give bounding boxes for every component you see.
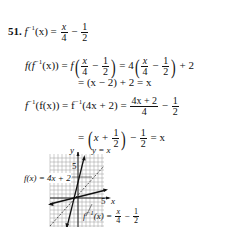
problem-number: 51. [8, 25, 22, 37]
composition-f-of-finv-result: = (x − 2) + 2 = x [78, 77, 151, 88]
identity-label: y = x [92, 145, 111, 155]
x-tick-5: 5 [101, 196, 106, 206]
f-label: f(x) = 4x + 2 [24, 173, 71, 183]
fraction: 12 [81, 22, 88, 43]
finv-label: f−1(x) = x4 − 12 [83, 208, 140, 225]
y-tick-5: 5 [72, 161, 77, 171]
composition-f-of-finv: f(f−1(x)) = f(x4 − 12) = 4(x4 − 12) + 2 [25, 56, 194, 77]
inverse-definition: 51. f−1(x) = x4 − 12 [8, 22, 89, 43]
x-axis-label: x [111, 196, 115, 206]
composition-finv-of-f: f−1(f(x)) = f−1(4x + 2) = 4x + 24 − 12 [25, 96, 180, 117]
fraction: x4 [61, 22, 68, 43]
y-axis-label: y [70, 145, 74, 155]
